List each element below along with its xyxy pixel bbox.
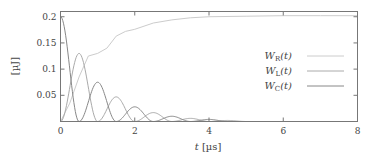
x-tick-label: 6: [280, 126, 286, 136]
energy-chart: 02468 0.050.10.150.2 t [µs] [µJ] WR(t)WL…: [0, 0, 373, 161]
plot-frame: [61, 12, 358, 122]
data-curves: [61, 16, 358, 122]
y-tick-label: 0.2: [42, 12, 56, 22]
legend: WR(t)WL(t)WC(t): [265, 50, 344, 93]
y-axis-label: [µJ]: [9, 57, 20, 75]
x-tick-label: 0: [58, 126, 64, 136]
x-tick-label: 2: [132, 126, 138, 136]
legend-label-R: WR(t): [265, 50, 292, 63]
y-tick-label: 0.1: [42, 64, 56, 74]
series-L-curve: [61, 53, 358, 121]
y-tick-label: 0.15: [36, 38, 56, 48]
x-tick-label: 4: [206, 126, 212, 136]
y-tick-label: 0.05: [36, 90, 56, 100]
series-R-curve: [61, 16, 358, 122]
legend-label-C: WC(t): [265, 80, 293, 93]
plot-area: 02468 0.050.10.150.2: [36, 12, 360, 136]
legend-label-L: WL(t): [265, 65, 292, 78]
x-axis-label: t [µs]: [195, 141, 222, 152]
series-C-curve: [61, 17, 358, 122]
x-tick-label: 8: [355, 126, 361, 136]
